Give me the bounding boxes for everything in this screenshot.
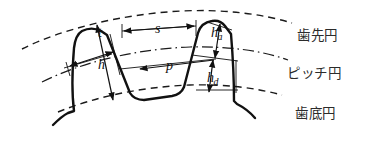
label-root-circle: 歯底円 <box>295 102 336 122</box>
dimension-label-t: t <box>98 25 102 41</box>
dimension-subscript-hd: d <box>214 76 219 87</box>
dimension-subscript-ha: a <box>218 31 223 42</box>
dimension-label-hd: hd <box>207 70 219 87</box>
dimension-symbol-s: s <box>155 21 160 36</box>
dimension-label-s: s <box>155 21 160 37</box>
gear-tooth-diagram-figure: 歯先円 ピッチ円 歯底円 t s h p ha hd <box>0 0 380 143</box>
dimension-label-p: p <box>166 58 173 74</box>
label-tip-circle: 歯先円 <box>297 24 338 44</box>
dimension-arrow-p <box>140 60 214 69</box>
gear-tooth-outline <box>53 21 255 125</box>
dimension-symbol-h: h <box>98 57 105 72</box>
dimension-symbol-ha: h <box>211 25 218 40</box>
dimension-symbol-p: p <box>166 58 173 73</box>
dimension-symbol-hd: h <box>207 70 214 85</box>
dimension-symbol-t: t <box>98 25 102 40</box>
root-circle-arc <box>58 85 282 112</box>
dimension-label-h: h <box>98 57 105 73</box>
construction-line-left-vertical <box>66 62 70 76</box>
label-pitch-circle: ピッチ円 <box>287 62 341 82</box>
dimension-label-ha: ha <box>211 25 223 42</box>
